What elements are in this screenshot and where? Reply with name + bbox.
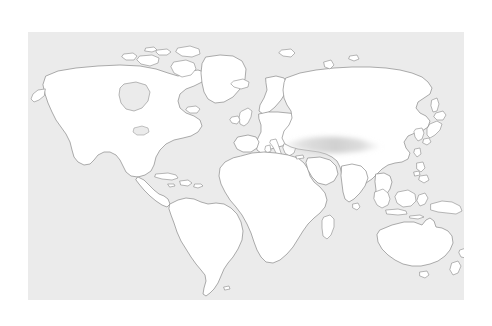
region-south-america[interactable] (169, 198, 243, 296)
island-madagascar[interactable] (322, 215, 334, 239)
island-ellesmere[interactable] (176, 46, 200, 57)
island-borneo[interactable] (395, 190, 416, 207)
region-iberia[interactable] (234, 135, 259, 152)
island-ireland[interactable] (230, 116, 240, 124)
island-sardinia-corsica[interactable] (265, 145, 271, 153)
island-philippines-small[interactable] (414, 171, 420, 176)
island-arctic-severnaya[interactable] (349, 55, 359, 61)
island-new-zealand-south[interactable] (450, 261, 461, 275)
island-new-zealand-north[interactable] (459, 248, 464, 258)
island-puerto-rico[interactable] (194, 184, 203, 188)
world-map-figure (0, 0, 492, 326)
map-panel[interactable] (28, 32, 464, 300)
island-philippines-mindanao[interactable] (419, 175, 429, 183)
island-philippines-luzon[interactable] (417, 162, 425, 172)
island-falklands[interactable] (224, 286, 230, 290)
island-cuba[interactable] (155, 173, 178, 180)
island-java[interactable] (386, 209, 407, 215)
island-newfoundland[interactable] (186, 106, 200, 113)
island-sakhalin[interactable] (431, 98, 439, 112)
island-great-britain[interactable] (239, 108, 252, 126)
region-greenland[interactable] (201, 55, 246, 103)
island-lesser-sunda[interactable] (410, 215, 424, 219)
island-cyprus-crete[interactable] (296, 155, 304, 159)
island-tasmania[interactable] (420, 271, 429, 278)
island-taiwan[interactable] (414, 148, 421, 157)
region-central-america[interactable] (136, 177, 170, 207)
island-svalbard[interactable] (279, 49, 295, 57)
island-arctic-small-a[interactable] (156, 49, 171, 55)
region-north-america[interactable] (43, 65, 206, 177)
island-victoria[interactable] (137, 55, 159, 66)
island-jamaica[interactable] (168, 184, 175, 187)
island-arctic-small-b[interactable] (145, 47, 157, 52)
island-sulawesi[interactable] (417, 193, 428, 206)
island-sri-lanka[interactable] (353, 203, 360, 210)
island-novaya-zemlya[interactable] (324, 60, 334, 69)
island-japan-kyushu[interactable] (423, 138, 431, 145)
region-india[interactable] (341, 164, 368, 202)
island-japan-hokkaido[interactable] (434, 111, 446, 120)
region-korea[interactable] (414, 128, 424, 141)
island-new-guinea[interactable] (431, 201, 462, 214)
world-map-svg[interactable] (28, 32, 464, 300)
region-australia[interactable] (377, 218, 453, 266)
island-hispaniola[interactable] (180, 180, 192, 186)
region-alaska-peninsula[interactable] (31, 89, 45, 102)
island-banks[interactable] (122, 53, 137, 60)
